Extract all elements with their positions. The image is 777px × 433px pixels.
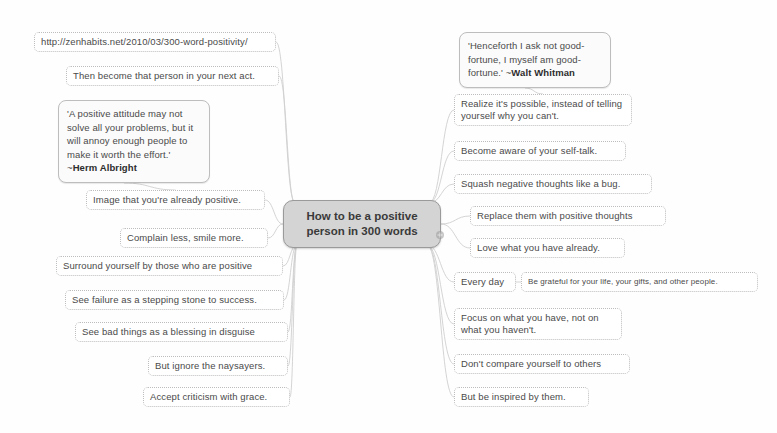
topic-node-accept-criticism[interactable]: Accept criticism with grace. — [143, 387, 290, 407]
topic-node-surround-yourself[interactable]: Surround yourself by those who are posit… — [56, 256, 283, 276]
topic-node-label: Don't compare yourself to others — [461, 358, 601, 369]
topic-node-label: Realize it's possible, instead of tellin… — [461, 98, 622, 121]
central-topic-label: How to be a positive person in 300 words — [294, 209, 430, 239]
connector-complain-less — [268, 224, 283, 238]
topic-node-replace-thoughts[interactable]: Replace them with positive thoughts — [470, 206, 666, 226]
topic-node-then-become[interactable]: Then become that person in your next act… — [66, 66, 279, 86]
connector-focus-on-what — [427, 245, 454, 324]
connector-love-what-you-have — [441, 224, 470, 248]
topic-node-complain-less[interactable]: Complain less, smile more. — [120, 228, 268, 248]
topic-node-label: Every day — [461, 276, 504, 287]
topic-node-be-grateful[interactable]: Be grateful for your life, your gifts, a… — [521, 272, 758, 292]
connector-quote-albright — [124, 183, 176, 190]
connector-dont-compare — [427, 245, 454, 364]
topic-node-become-aware[interactable]: Become aware of your self-talk. — [454, 141, 626, 161]
connector-become-aware — [429, 151, 454, 203]
connector-then-become — [279, 76, 295, 203]
topic-node-label: Be grateful for your life, your gifts, a… — [528, 277, 718, 286]
connector-surround-yourself — [283, 245, 297, 266]
connector-image-positive — [265, 200, 283, 224]
topic-node-label: Squash negative thoughts like a bug. — [461, 178, 620, 189]
topic-node-author: Walt Whitman — [511, 67, 575, 78]
topic-node-label: Image that you're already positive. — [93, 194, 241, 205]
topic-node-realize-possible[interactable]: Realize it's possible, instead of tellin… — [454, 94, 632, 126]
topic-node-love-what-you-have[interactable]: Love what you have already. — [470, 238, 625, 258]
topic-node-label: http://zenhabits.net/2010/03/300-word-po… — [41, 36, 248, 47]
topic-node-dont-compare[interactable]: Don't compare yourself to others — [454, 354, 630, 374]
topic-node-label: Complain less, smile more. — [127, 232, 244, 243]
topic-node-be-inspired[interactable]: But be inspired by them. — [454, 387, 589, 407]
topic-node-label: Love what you have already. — [477, 242, 600, 253]
topic-node-see-bad-things[interactable]: See bad things as a blessing in disguise — [75, 322, 288, 342]
attachment-marker-icon[interactable] — [435, 230, 444, 239]
topic-node-label: But be inspired by them. — [461, 391, 566, 402]
connector-see-bad-things — [288, 245, 297, 332]
connector-ignore-naysayers — [288, 245, 297, 366]
central-topic-node[interactable]: How to be a positive person in 300 words — [283, 200, 441, 248]
topic-node-ignore-naysayers[interactable]: But ignore the naysayers. — [148, 356, 288, 376]
connector-be-inspired — [427, 245, 454, 397]
topic-node-label: Replace them with positive thoughts — [477, 210, 633, 221]
connector-replace-thoughts — [441, 216, 470, 224]
topic-node-quote-albright[interactable]: 'A positive attitude may not solve all y… — [58, 100, 210, 183]
topic-node-label: Focus on what you have, not on what you … — [461, 312, 599, 335]
topic-node-label: But ignore the naysayers. — [155, 360, 265, 371]
topic-node-label: See bad things as a blessing in disguise — [82, 326, 255, 337]
topic-node-label: Surround yourself by those who are posit… — [63, 260, 252, 271]
topic-node-label: Accept criticism with grace. — [150, 391, 267, 402]
mindmap-canvas: How to be a positive person in 300 words… — [0, 0, 777, 433]
topic-node-label: See failure as a stepping stone to succe… — [72, 294, 257, 305]
connector-source-url — [276, 42, 295, 203]
connector-accept-criticism — [290, 245, 297, 397]
topic-node-squash-negative[interactable]: Squash negative thoughts like a bug. — [454, 174, 652, 194]
connector-every-day — [427, 245, 454, 282]
topic-node-image-positive[interactable]: Image that you're already positive. — [86, 190, 265, 210]
topic-node-label: Then become that person in your next act… — [73, 70, 255, 81]
topic-node-see-failure[interactable]: See failure as a stepping stone to succe… — [65, 290, 284, 310]
topic-node-focus-on-what[interactable]: Focus on what you have, not on what you … — [454, 308, 622, 340]
connector-realize-possible — [429, 110, 454, 203]
topic-node-source-url[interactable]: http://zenhabits.net/2010/03/300-word-po… — [34, 32, 276, 52]
topic-node-every-day[interactable]: Every day — [454, 272, 516, 292]
topic-node-label: Become aware of your self-talk. — [461, 145, 597, 156]
connector-see-failure — [284, 245, 297, 300]
topic-node-quote-whitman[interactable]: 'Henceforth I ask not good-fortune, I my… — [459, 32, 611, 88]
topic-node-author: Herm Albright — [73, 162, 137, 173]
